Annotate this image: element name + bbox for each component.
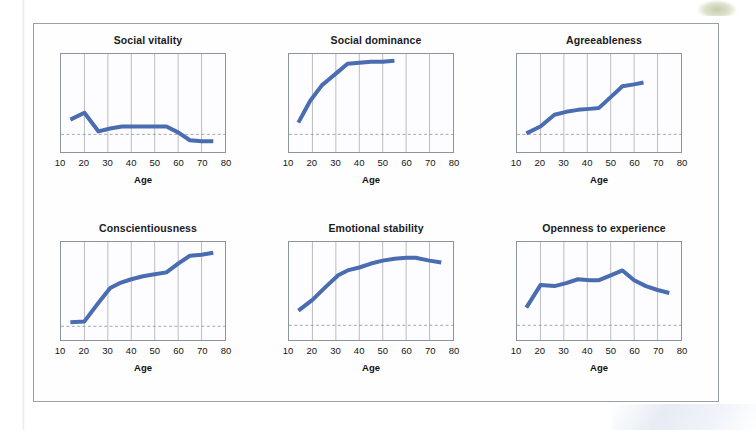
x-tick-label: 80 <box>221 345 232 356</box>
chart-panel-openness-to-experience: Openness to experience 1020304050607080 … <box>490 216 718 401</box>
x-tick-label: 60 <box>629 157 640 168</box>
scan-artifact-bottom-right <box>612 404 756 430</box>
chart-title: Social vitality <box>34 34 262 46</box>
x-axis-ticks: 1020304050607080 <box>516 345 682 361</box>
x-tick-label: 30 <box>330 157 341 168</box>
x-axis-ticks: 1020304050607080 <box>516 157 682 173</box>
scan-artifact-left-edge <box>22 0 25 430</box>
x-tick-label: 70 <box>653 157 664 168</box>
x-axis-ticks: 1020304050607080 <box>288 345 454 361</box>
plot-area <box>288 241 454 341</box>
x-tick-label: 10 <box>511 345 522 356</box>
trend-line <box>298 258 441 311</box>
x-tick-label: 10 <box>511 157 522 168</box>
x-tick-label: 20 <box>534 157 545 168</box>
x-tick-label: 10 <box>55 157 66 168</box>
x-axis-label: Age <box>516 362 682 373</box>
chart-panel-conscientiousness: Conscientiousness 1020304050607080 Age <box>34 216 262 401</box>
x-tick-label: 80 <box>449 157 460 168</box>
x-axis-label: Age <box>288 174 454 185</box>
x-tick-label: 10 <box>55 345 66 356</box>
x-tick-label: 70 <box>197 345 208 356</box>
x-tick-label: 20 <box>534 345 545 356</box>
trend-line <box>70 113 213 141</box>
x-tick-label: 20 <box>306 157 317 168</box>
x-tick-label: 10 <box>283 345 294 356</box>
x-tick-label: 50 <box>150 157 161 168</box>
x-tick-label: 30 <box>102 157 113 168</box>
x-tick-label: 50 <box>606 345 617 356</box>
chart-row-top: Social vitality 1020304050607080 Age Soc… <box>34 28 718 216</box>
x-tick-label: 70 <box>653 345 664 356</box>
x-tick-label: 40 <box>582 345 593 356</box>
plot-area <box>516 53 682 153</box>
x-tick-label: 60 <box>629 345 640 356</box>
x-tick-label: 40 <box>582 157 593 168</box>
figure-frame: Social vitality 1020304050607080 Age Soc… <box>33 23 719 402</box>
trend-line <box>526 270 669 307</box>
x-tick-label: 60 <box>173 345 184 356</box>
x-tick-label: 20 <box>78 157 89 168</box>
chart-panel-agreeableness: Agreeableness 1020304050607080 Age <box>490 28 718 216</box>
plot-area <box>516 241 682 341</box>
chart-title: Agreeableness <box>490 34 718 46</box>
x-tick-label: 60 <box>173 157 184 168</box>
trend-line <box>70 253 213 323</box>
x-tick-label: 40 <box>354 345 365 356</box>
x-tick-label: 80 <box>221 157 232 168</box>
x-tick-label: 30 <box>558 157 569 168</box>
chart-title: Emotional stability <box>262 222 490 234</box>
x-tick-label: 70 <box>425 157 436 168</box>
x-axis-ticks: 1020304050607080 <box>288 157 454 173</box>
x-tick-label: 70 <box>197 157 208 168</box>
x-tick-label: 30 <box>102 345 113 356</box>
x-tick-label: 60 <box>401 157 412 168</box>
chart-row-bottom: Conscientiousness 1020304050607080 Age E… <box>34 216 718 401</box>
trend-line <box>298 61 394 123</box>
x-tick-label: 20 <box>78 345 89 356</box>
x-axis-label: Age <box>60 362 226 373</box>
x-tick-label: 80 <box>677 345 688 356</box>
chart-panel-social-dominance: Social dominance 1020304050607080 Age <box>262 28 490 216</box>
plot-area <box>288 53 454 153</box>
x-tick-label: 40 <box>354 157 365 168</box>
x-tick-label: 50 <box>378 157 389 168</box>
x-tick-label: 50 <box>150 345 161 356</box>
chart-panel-social-vitality: Social vitality 1020304050607080 Age <box>34 28 262 216</box>
scan-artifact-top-right <box>697 0 737 16</box>
x-tick-label: 50 <box>378 345 389 356</box>
chart-title: Social dominance <box>262 34 490 46</box>
x-tick-label: 50 <box>606 157 617 168</box>
x-tick-label: 80 <box>677 157 688 168</box>
plot-area <box>60 53 226 153</box>
x-tick-label: 10 <box>283 157 294 168</box>
chart-title: Openness to experience <box>490 222 718 234</box>
x-tick-label: 40 <box>126 157 137 168</box>
x-axis-label: Age <box>288 362 454 373</box>
trend-line <box>526 82 643 133</box>
x-axis-ticks: 1020304050607080 <box>60 345 226 361</box>
x-axis-ticks: 1020304050607080 <box>60 157 226 173</box>
x-tick-label: 40 <box>126 345 137 356</box>
x-tick-label: 30 <box>330 345 341 356</box>
plot-area <box>60 241 226 341</box>
x-tick-label: 80 <box>449 345 460 356</box>
chart-title: Conscientiousness <box>34 222 262 234</box>
x-axis-label: Age <box>516 174 682 185</box>
x-axis-label: Age <box>60 174 226 185</box>
x-tick-label: 70 <box>425 345 436 356</box>
x-tick-label: 20 <box>306 345 317 356</box>
chart-panel-emotional-stability: Emotional stability 1020304050607080 Age <box>262 216 490 401</box>
x-tick-label: 60 <box>401 345 412 356</box>
x-tick-label: 30 <box>558 345 569 356</box>
